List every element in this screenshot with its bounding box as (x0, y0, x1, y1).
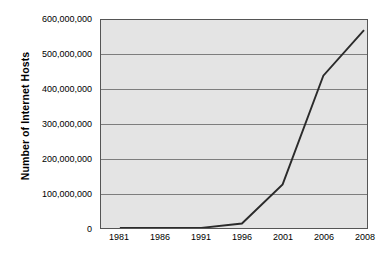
y-tick-label: 300,000,000 (42, 119, 92, 129)
x-axis-tick-labels: 1981 1986 1991 1996 2001 2006 2008 (100, 232, 368, 250)
y-tick-label: 0 (87, 224, 92, 234)
x-tick-label: 1981 (109, 232, 129, 242)
data-series-line (101, 20, 367, 228)
x-tick-label: 2001 (273, 232, 293, 242)
y-tick-label: 400,000,000 (42, 84, 92, 94)
x-tick-label: 1986 (150, 232, 170, 242)
x-tick-label: 2006 (314, 232, 334, 242)
y-tick-label: 100,000,000 (42, 189, 92, 199)
y-tick-label: 500,000,000 (42, 49, 92, 59)
x-tick-label: 2008 (355, 232, 375, 242)
y-axis-tick-labels: 0 100,000,000 200,000,000 300,000,000 40… (0, 0, 96, 262)
plot-area (100, 19, 368, 229)
y-tick-label: 600,000,000 (42, 14, 92, 24)
y-tick-label: 200,000,000 (42, 154, 92, 164)
internet-hosts-line-chart: Number of Internet Hosts 0 100,000,000 2… (0, 0, 392, 262)
x-tick-label: 1996 (232, 232, 252, 242)
x-tick-label: 1991 (191, 232, 211, 242)
internet-hosts-polyline (120, 30, 364, 228)
